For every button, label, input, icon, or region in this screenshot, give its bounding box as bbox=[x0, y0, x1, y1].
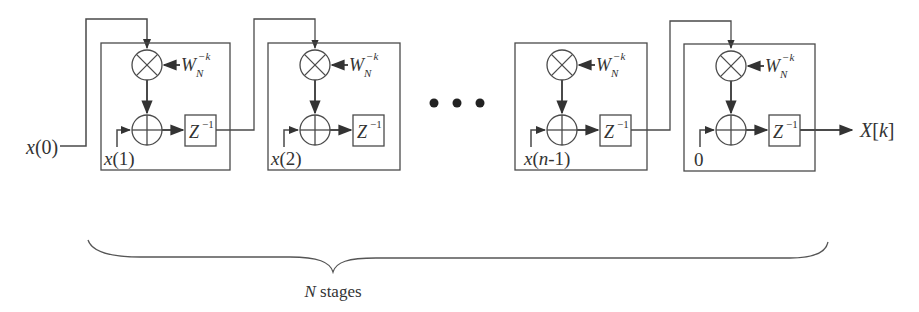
adder-input-label: x(n-1) bbox=[523, 148, 570, 170]
multiplier-icon bbox=[132, 50, 162, 80]
delay-label: Z bbox=[773, 122, 784, 142]
delay-label: Z bbox=[357, 122, 368, 142]
input-wire bbox=[60, 19, 147, 146]
twiddle-sup: −k bbox=[613, 50, 626, 62]
twiddle-sub: N bbox=[195, 67, 204, 79]
output-label: X[k] bbox=[859, 119, 894, 141]
stage-box bbox=[684, 44, 815, 171]
adder-input-label: 0 bbox=[694, 149, 704, 170]
adder-icon bbox=[716, 115, 746, 145]
delay-sup: −1 bbox=[370, 118, 382, 130]
ellipsis-dots bbox=[430, 99, 485, 108]
adder-icon bbox=[547, 115, 577, 145]
goertzel-cascade-diagram: x(0) W −k N W −k N W −k N W −k N Z −1 Z … bbox=[0, 0, 919, 312]
twiddle-sub: N bbox=[363, 67, 372, 79]
adder-icon bbox=[300, 115, 330, 145]
twiddle-sub: N bbox=[779, 68, 788, 80]
adder-input-labels: x(1) x(2) x(n-1) 0 bbox=[103, 148, 704, 170]
brace-label: N stages bbox=[303, 282, 361, 301]
input-label: x(0) bbox=[25, 136, 58, 159]
delay-sup: −1 bbox=[202, 118, 214, 130]
adder-input-label: x(2) bbox=[270, 148, 302, 170]
delay-sup: −1 bbox=[617, 118, 629, 130]
adder-icon bbox=[132, 115, 162, 145]
twiddle-sup: −k bbox=[782, 51, 795, 63]
twiddle-sup: −k bbox=[366, 50, 379, 62]
adder-input-label: x(1) bbox=[103, 148, 135, 170]
twiddle-sub: N bbox=[610, 67, 619, 79]
brace-icon bbox=[88, 240, 828, 272]
multiplier-icon bbox=[300, 50, 330, 80]
delay-label: Z bbox=[189, 122, 200, 142]
multiplier-icon bbox=[716, 51, 746, 81]
delay-sup: −1 bbox=[786, 118, 798, 130]
twiddle-sup: −k bbox=[198, 50, 211, 62]
twiddle-labels: W −k N W −k N W −k N W −k N bbox=[181, 50, 795, 80]
multiplier-icon bbox=[547, 50, 577, 80]
delay-label: Z bbox=[604, 122, 615, 142]
